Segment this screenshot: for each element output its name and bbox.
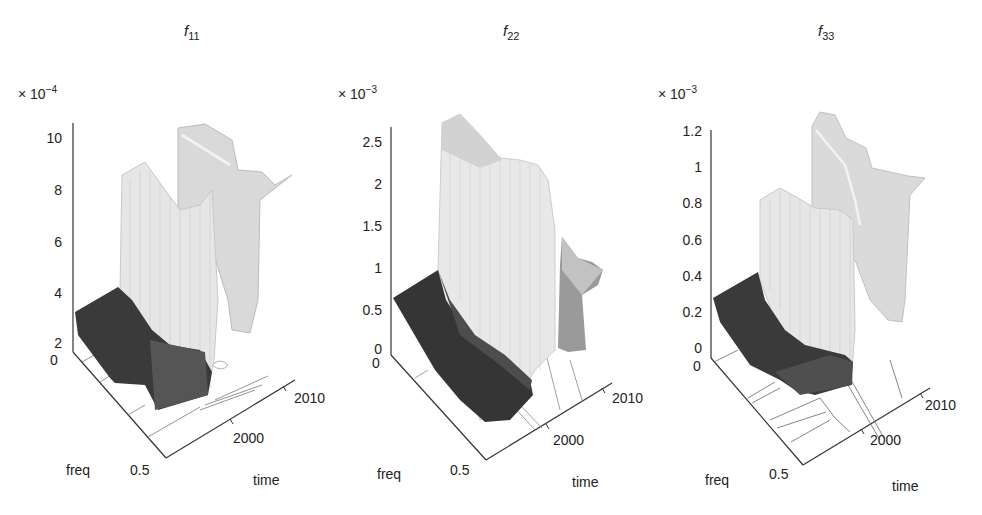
y-tick: 2000 <box>233 430 264 446</box>
z-tick: 1 <box>338 260 382 276</box>
y-tick: 2010 <box>925 397 956 413</box>
z-tick: 4 <box>18 285 62 301</box>
z-tick: 1.2 <box>658 123 702 139</box>
surface-plot <box>0 0 327 515</box>
panel-f22: f22 × 10−3 2.5 2 1.5 1 <box>320 0 647 515</box>
z-tick: 1 <box>658 159 702 175</box>
z-tick: 0 <box>658 340 702 356</box>
y-tick: 2010 <box>612 390 643 406</box>
y-tick: 2000 <box>870 432 901 448</box>
z-tick: 1.5 <box>338 218 382 234</box>
z-tick: 10 <box>18 130 62 146</box>
z-tick: 6 <box>18 234 62 250</box>
z-tick: 0.2 <box>658 304 702 320</box>
z-tick: 2.5 <box>338 134 382 150</box>
z-tick: 2 <box>338 176 382 192</box>
z-tick: 0.4 <box>658 268 702 284</box>
z-tick: 8 <box>18 182 62 198</box>
x-tick: 0 <box>50 352 58 368</box>
x-tick: 0.5 <box>769 466 788 482</box>
x-tick: 0 <box>693 358 701 374</box>
x-tick: 0 <box>372 355 380 371</box>
z-tick: 2 <box>18 335 62 351</box>
x-tick: 0.5 <box>130 462 149 478</box>
x-axis-label: freq <box>705 472 729 488</box>
surface-plot <box>640 0 982 515</box>
x-tick: 0.5 <box>450 462 469 478</box>
x-axis-label: freq <box>377 466 401 482</box>
panel-f11: f11 × 10−4 <box>0 0 327 515</box>
x-axis-label: freq <box>66 462 90 478</box>
y-axis-label: time <box>253 472 279 488</box>
z-tick: 0.6 <box>658 232 702 248</box>
z-tick: 0.8 <box>658 195 702 211</box>
surface-plot <box>320 0 647 515</box>
y-axis-label: time <box>892 478 918 494</box>
panel-f33: f33 × 10−3 <box>640 0 967 515</box>
y-axis-label: time <box>572 474 598 490</box>
z-tick: 0.5 <box>338 302 382 318</box>
y-tick: 2000 <box>553 432 584 448</box>
